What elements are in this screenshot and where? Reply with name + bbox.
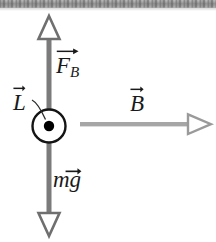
magnetic-field-arrow	[80, 114, 211, 134]
label-force-magnetic-base: F	[56, 53, 70, 78]
label-magnetic-field-stack: B	[130, 92, 144, 115]
label-length-vector-stack: L	[13, 91, 26, 114]
horizontal-arrow-shaft	[80, 122, 189, 126]
label-weight: mg	[53, 168, 81, 191]
label-force-magnetic-subscript: B	[70, 63, 79, 80]
label-length-vector-base: L	[13, 90, 26, 115]
up-arrowhead-icon	[39, 16, 60, 39]
label-magnetic-field: B	[130, 92, 144, 115]
label-force-magnetic-stack: FB	[56, 54, 79, 79]
diagram-canvas	[0, 0, 216, 242]
current-direction-dot-icon	[44, 121, 54, 131]
right-arrowhead-icon	[188, 114, 211, 134]
down-arrowhead-icon	[39, 213, 60, 236]
label-length-vector: L	[13, 91, 26, 114]
label-magnetic-field-base: B	[130, 91, 144, 116]
physics-force-diagram: FB L B mg	[0, 0, 216, 242]
label-force-magnetic: FB	[56, 54, 79, 79]
current-out-of-page-symbol	[33, 110, 66, 143]
label-weight-base: mg	[53, 167, 81, 192]
